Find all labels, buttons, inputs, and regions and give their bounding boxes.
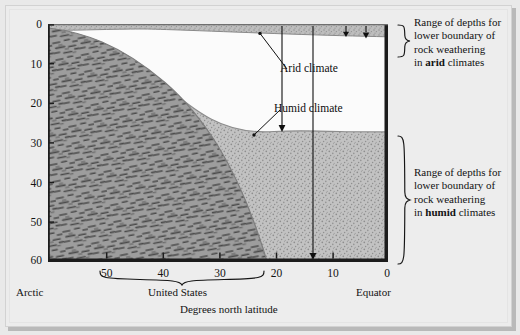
y-tick-40: 40 [31,176,43,188]
y-tick-10: 10 [31,57,43,69]
y-tick-50: 50 [31,216,43,228]
arid-callout-line3: rock weathering [414,43,514,56]
humid-callout-bold: humid [425,206,456,218]
humid-climate-label: Humid climate [274,102,343,114]
arctic-region-label: Arctic [16,286,43,298]
arid-range-brace [396,24,412,58]
x-tick-20: 20 [271,267,283,279]
x-axis-line [48,259,388,263]
humid-callout-line4: in humid climates [414,206,514,219]
humid-callout-suffix: climates [456,206,495,218]
equator-region-label: Equator [356,286,391,298]
plot-right-border [385,24,389,262]
united-states-brace [98,270,268,286]
humid-callout-prefix: in [414,206,425,218]
humid-range-brace [396,135,412,265]
cross-section-svg [48,24,388,262]
y-tick-0: 0 [36,18,42,30]
y-tick-30: 30 [31,137,43,149]
arid-callout-bold: arid [425,56,445,68]
arid-callout-prefix: in [414,56,425,68]
arid-callout-line4: in arid climates [414,56,514,69]
arid-callout-line1: Range of depths for [414,16,514,29]
y-tick-60: 60 [31,254,43,266]
figure-root: 0 10 20 30 40 50 60 50 40 30 20 10 0 Dep… [0,0,520,335]
arid-callout-line2: lower boundary of [414,29,514,42]
plot-area: 0 10 20 30 40 50 60 50 40 30 20 10 0 Dep… [48,24,388,262]
x-axis-label: Degrees north latitude [180,303,278,315]
humid-callout-line1: Range of depths for [414,166,514,179]
y-tick-20: 20 [31,97,43,109]
humid-callout-line3: rock weathering [414,193,514,206]
united-states-region-label: United States [148,286,207,298]
x-tick-10: 10 [327,267,339,279]
x-tick-0: 0 [384,267,390,279]
arid-climate-label: Arid climate [280,62,338,74]
arid-callout-suffix: climates [445,56,484,68]
humid-range-callout: Range of depths for lower boundary of ro… [414,166,514,220]
arid-range-callout: Range of depths for lower boundary of ro… [414,16,514,70]
humid-callout-line2: lower boundary of [414,179,514,192]
